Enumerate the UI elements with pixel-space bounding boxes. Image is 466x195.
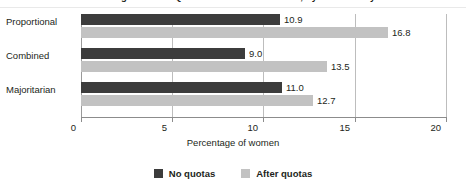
x-tick-label-5: 5 — [162, 122, 170, 133]
legend-swatch-icon-after-quotas — [241, 169, 250, 178]
legend-swatch-icon-no-quotas — [154, 169, 163, 178]
x-tick-label-15: 15 — [339, 122, 353, 133]
gridline-20 — [446, 14, 447, 117]
x-tick-5 — [172, 118, 173, 122]
legend-label-after-quotas: After quotas — [256, 168, 312, 179]
x-tick-label-20: 20 — [430, 122, 444, 133]
value-label-majoritarian-no-quotas: 11.0 — [286, 82, 304, 93]
category-label-majoritarian: Majoritarian — [6, 84, 81, 95]
bar-majoritarian-after-quotas[interactable] — [81, 95, 313, 106]
x-tick-label-10: 10 — [247, 122, 261, 133]
category-label-proportional: Proportional — [6, 16, 81, 27]
legend-label-no-quotas: No quotas — [169, 168, 215, 179]
bar-combined-after-quotas[interactable] — [81, 61, 327, 72]
x-tick-15 — [355, 118, 356, 122]
chart-legend: No quotas After quotas — [0, 168, 466, 179]
x-axis-title: Percentage of women — [0, 137, 466, 148]
x-tick-10 — [263, 118, 264, 122]
legend-item-no-quotas[interactable]: No quotas — [154, 168, 215, 179]
value-label-proportional-no-quotas: 10.9 — [284, 14, 303, 25]
category-label-combined: Combined — [6, 50, 81, 61]
value-label-proportional-after-quotas: 16.8 — [392, 27, 411, 38]
bar-majoritarian-no-quotas[interactable] — [81, 82, 282, 93]
value-label-combined-after-quotas: 13.5 — [331, 61, 350, 72]
x-tick-0 — [81, 118, 82, 122]
legend-item-after-quotas[interactable]: After quotas — [241, 168, 312, 179]
category-axis: Proportional Combined Majoritarian — [0, 14, 75, 117]
x-axis-line — [81, 117, 447, 118]
value-label-majoritarian-after-quotas: 12.7 — [317, 95, 336, 106]
plot-area: 10.9 16.8 9.0 13.5 11.0 12.7 — [81, 14, 446, 117]
title-divider — [0, 7, 466, 8]
bar-proportional-no-quotas[interactable] — [81, 14, 280, 25]
x-tick-20 — [446, 118, 447, 122]
value-label-combined-no-quotas: 9.0 — [249, 48, 262, 59]
bar-combined-no-quotas[interactable] — [81, 48, 245, 59]
chart-container: Effect of Legal Gender Quotas in Lower C… — [0, 0, 466, 195]
chart-title: Effect of Legal Gender Quotas in Lower C… — [0, 0, 466, 2]
x-tick-label-0: 0 — [71, 122, 79, 133]
bar-proportional-after-quotas[interactable] — [81, 27, 388, 38]
